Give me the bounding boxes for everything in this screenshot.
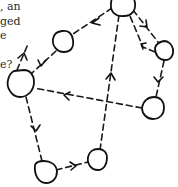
- arrowhead-b-to-d: [38, 60, 46, 66]
- edge-a-to-b: [73, 8, 112, 34]
- node-g: [88, 149, 107, 170]
- arrowhead-d-to-f: [31, 125, 40, 131]
- arrowheads: [18, 18, 163, 170]
- node-c: [155, 41, 173, 60]
- edges: [17, 8, 164, 170]
- arrowhead-e-to-d: [64, 92, 70, 100]
- edge-g-to-a: [100, 15, 119, 150]
- node-d: [8, 70, 34, 97]
- arrowhead-c-to-e: [154, 77, 163, 82]
- edge-e-to-d: [34, 88, 142, 108]
- node-e: [142, 97, 164, 119]
- nodes: [8, 0, 174, 183]
- node-a: [111, 0, 135, 16]
- node-f: [35, 161, 57, 183]
- directed-graph-diagram: [0, 0, 178, 187]
- node-b: [53, 31, 73, 52]
